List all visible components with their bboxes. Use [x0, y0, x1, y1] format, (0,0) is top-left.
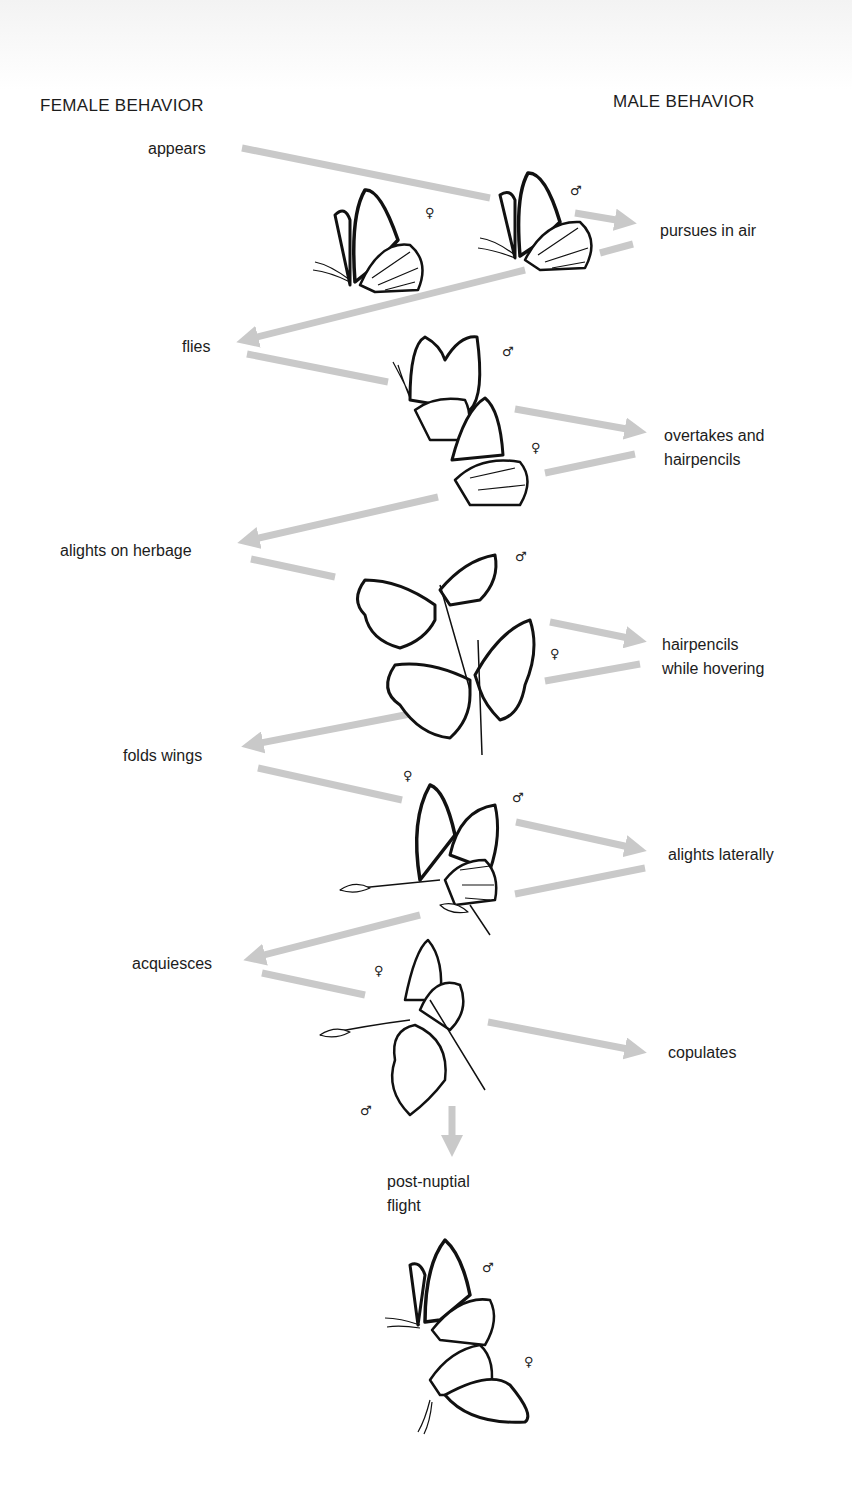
male-symbol: ♂	[482, 1260, 494, 1275]
butterfly-pair-alighted	[340, 785, 498, 935]
butterfly-pair-copulating	[320, 940, 485, 1115]
male-symbol: ♂	[502, 344, 514, 359]
butterfly-pair-flying	[393, 337, 528, 505]
female-symbol: ♀	[403, 768, 413, 783]
male-symbol: ♂	[515, 549, 527, 564]
female-symbol: ♀	[425, 205, 435, 220]
butterfly-pair-hovering	[358, 555, 535, 755]
female-symbol: ♀	[374, 963, 384, 978]
female-symbol: ♀	[524, 1354, 534, 1369]
male-symbol: ♂	[360, 1103, 372, 1118]
male-symbol: ♂	[570, 183, 582, 198]
male-symbol: ♂	[512, 790, 524, 805]
female-symbol: ♀	[531, 440, 541, 455]
butterfly-illustrations	[0, 0, 852, 1497]
butterfly-pair-post-nuptial	[385, 1240, 528, 1434]
butterfly-female-1	[313, 190, 423, 292]
female-symbol: ♀	[550, 646, 560, 661]
